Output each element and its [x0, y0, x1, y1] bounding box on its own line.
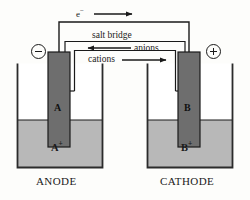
anode-ion-symbol: A — [51, 142, 59, 153]
plus-sign-bar-vertical — [213, 48, 214, 55]
electrode-a-label: A — [54, 103, 61, 113]
electron-charge-sup: − — [80, 7, 84, 15]
negative-terminal-icon — [31, 44, 46, 59]
electrode-b-bar — [178, 52, 200, 147]
cations-label: cations — [88, 55, 115, 65]
galvanic-cell-diagram: e− salt bridge anions cations A B A+ B+ … — [0, 0, 250, 200]
anode-ion-charge: + — [59, 139, 63, 148]
positive-terminal-icon — [206, 44, 221, 59]
minus-sign-bar — [35, 51, 42, 52]
cathode-ion-label: B+ — [181, 140, 192, 153]
electrode-a — [48, 52, 70, 147]
cathode-caption: CATHODE — [160, 176, 214, 187]
anode-ion-label: A+ — [51, 140, 63, 153]
electrode-a-bar — [48, 52, 70, 147]
salt-bridge-label: salt bridge — [92, 31, 132, 41]
cathode-ion-charge: + — [188, 139, 192, 148]
electrode-b-label: B — [184, 103, 191, 113]
cathode-ion-symbol: B — [181, 142, 188, 153]
electron-label: e− — [76, 8, 84, 19]
anode-caption: ANODE — [36, 176, 77, 187]
anions-label: anions — [134, 44, 159, 54]
electrode-b — [178, 52, 200, 147]
